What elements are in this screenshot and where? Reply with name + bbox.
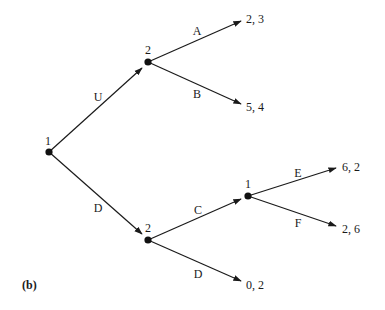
action-label: B (193, 87, 201, 101)
payoff-label: 6, 2 (342, 160, 360, 174)
decision-node-dot (144, 236, 151, 243)
edges: UDABCDEF (49, 21, 336, 281)
player-label: 1 (45, 134, 51, 148)
game-tree: UDABCDEF 1221 2, 35, 46, 22, 60, 2 (b) (0, 0, 385, 310)
payoff-label: 2, 6 (342, 222, 360, 236)
action-label: C (194, 203, 202, 217)
panel-label: (b) (22, 278, 37, 292)
action-label: F (295, 216, 302, 230)
action-label: U (94, 90, 103, 104)
payoff-label: 5, 4 (246, 100, 264, 114)
decision-node-dot (244, 192, 251, 199)
player-label: 2 (145, 221, 151, 235)
player-label: 1 (245, 177, 251, 191)
payoff-label: 0, 2 (246, 278, 264, 292)
edge-u-arrow (49, 68, 142, 152)
action-label: A (193, 24, 202, 38)
decision-node-dot (144, 58, 151, 65)
payoffs: 2, 35, 46, 22, 60, 2 (246, 12, 360, 292)
edge-d-arrow (49, 152, 142, 234)
decision-nodes: 1221 (45, 43, 252, 244)
payoff-label: 2, 3 (246, 12, 264, 26)
player-label: 2 (145, 43, 151, 57)
action-label: E (294, 166, 301, 180)
action-label: D (194, 267, 203, 281)
decision-node-dot (45, 148, 52, 155)
action-label: D (94, 201, 103, 215)
edge-f-arrow (248, 196, 336, 226)
edge-e-arrow (248, 168, 336, 196)
